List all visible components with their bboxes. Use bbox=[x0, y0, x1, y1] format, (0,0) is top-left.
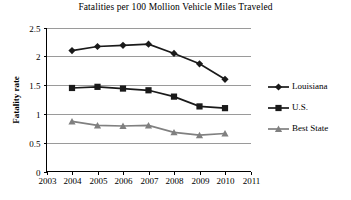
data-point-marker bbox=[69, 85, 75, 91]
y-tick-label: 2.5 bbox=[29, 24, 41, 34]
data-point-marker bbox=[170, 50, 177, 57]
series-louisiana bbox=[68, 41, 228, 83]
series-line bbox=[72, 44, 225, 79]
data-point-marker bbox=[145, 87, 151, 93]
data-point-marker bbox=[119, 42, 126, 49]
legend-label: U.S. bbox=[292, 102, 308, 112]
y-tick-label: 0.5 bbox=[29, 139, 41, 149]
chart-plot-area: 00.511.522.5 200320042005200620072008200… bbox=[0, 0, 351, 200]
y-tick-label: 1.5 bbox=[29, 81, 41, 91]
chart-legend: LouisianaU.S.Best State bbox=[268, 81, 328, 133]
data-point-marker bbox=[120, 85, 126, 91]
x-tick-label: 2010 bbox=[217, 176, 236, 186]
data-point-marker bbox=[196, 103, 202, 109]
x-tick-label: 2007 bbox=[141, 176, 160, 186]
y-tick-label: 2 bbox=[36, 52, 41, 62]
x-tick-label: 2004 bbox=[64, 176, 83, 186]
x-axis-ticks: 200320042005200620072008200920102011 bbox=[39, 172, 261, 186]
legend-item-u-s[interactable]: U.S. bbox=[268, 102, 308, 112]
data-point-marker bbox=[68, 47, 75, 54]
series-u-s bbox=[69, 84, 228, 112]
chart-container: Fatalities per 100 Mollion Vehicle Miles… bbox=[0, 0, 351, 200]
x-tick-label: 2008 bbox=[166, 176, 185, 186]
y-axis-title: Fatality rate bbox=[11, 76, 21, 124]
legend-item-louisiana[interactable]: Louisiana bbox=[268, 81, 328, 91]
x-tick-label: 2003 bbox=[39, 176, 58, 186]
x-tick-label: 2006 bbox=[115, 176, 134, 186]
data-point-marker bbox=[222, 105, 228, 111]
data-point-marker bbox=[94, 43, 101, 50]
legend-marker-square-icon bbox=[275, 105, 281, 111]
legend-label: Louisiana bbox=[292, 81, 328, 91]
data-point-marker bbox=[94, 84, 100, 90]
x-tick-label: 2005 bbox=[90, 176, 109, 186]
x-tick-label: 2011 bbox=[243, 176, 261, 186]
y-axis-ticks: 00.511.522.5 bbox=[29, 24, 46, 178]
data-point-marker bbox=[171, 94, 177, 100]
series-best-state bbox=[68, 118, 228, 138]
legend-marker-diamond-icon bbox=[275, 83, 282, 90]
data-point-marker bbox=[145, 41, 152, 48]
y-tick-label: 1 bbox=[36, 110, 41, 120]
data-series bbox=[68, 41, 228, 139]
legend-label: Best State bbox=[292, 123, 328, 133]
legend-item-best-state[interactable]: Best State bbox=[268, 123, 328, 133]
x-tick-label: 2009 bbox=[192, 176, 211, 186]
